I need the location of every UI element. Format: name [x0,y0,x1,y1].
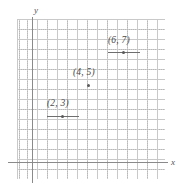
data-label-4-5: (4, 5) [73,68,95,78]
data-label-6-7: (6, 7) [108,36,130,46]
y-axis-label: y [34,6,38,15]
data-point-2-3 [61,115,64,118]
x-axis-line [8,162,168,163]
coordinate-plane-figure: y x (6, 7) (4, 5) (2, 3) [0,0,182,187]
grid-major-lines [17,19,165,179]
y-axis-line [32,17,33,183]
grid-minor-dotted [17,19,165,179]
data-point-4-5 [87,84,90,87]
data-label-2-3: (2, 3) [47,99,69,109]
x-axis-label: x [171,158,175,167]
data-point-6-7 [122,51,125,54]
